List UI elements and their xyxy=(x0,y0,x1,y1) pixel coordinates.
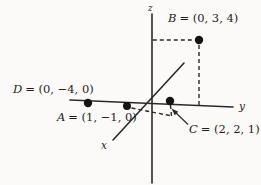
point-D-dot xyxy=(84,99,92,107)
axes-figure-canvas: z y x B= (0, 3, 4) D= (0, −4, 0) A= (1, … xyxy=(0,0,261,185)
z-axis-label: z xyxy=(147,3,153,13)
point-B-label: B= (0, 3, 4) xyxy=(167,11,238,25)
point-A-dot xyxy=(123,102,131,110)
point-B-dot xyxy=(195,36,203,44)
y-axis-label: y xyxy=(238,100,246,112)
x-axis-label: x xyxy=(101,139,107,151)
point-C-label: C= (2, 2, 1) xyxy=(189,122,260,136)
point-C-dot xyxy=(166,97,174,105)
point-A-label: A= (1, −1, 0) xyxy=(56,110,137,124)
c-projection-vertical-dashed xyxy=(171,105,172,116)
point-D-label: D= (0, −4, 0) xyxy=(12,82,94,96)
coordinate-diagram: z y x B= (0, 3, 4) D= (0, −4, 0) A= (1, … xyxy=(0,0,261,185)
